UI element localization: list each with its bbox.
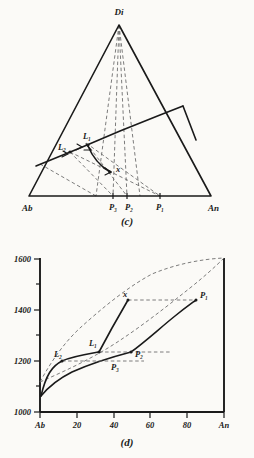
point-marker-x [108,170,111,173]
y-tick-label-1600: 1600 [14,254,32,264]
point-marker-L1 [86,143,89,146]
series-plagioclase-liquidus [40,258,224,382]
panel-d-caption: (d) [0,436,254,448]
label-P1-panel-d: P₁ [200,290,208,300]
x-tick-label-20: 20 [72,420,82,430]
y-tick-label-1200: 1200 [14,356,32,366]
figure-container: Di Ab An L₂ L₁ x P₃ P₂ P₁ (c) [0,0,254,458]
point-marker-P2-panel-d [130,351,133,354]
panel-c-caption: (c) [0,215,254,227]
panel-c-ternary-diagram: Di Ab An L₂ L₁ x P₃ P₂ P₁ [0,0,254,215]
y-tick-label-1000: 1000 [14,407,32,417]
label-x-panel-c: x [115,164,121,174]
label-P3-panel-c: P₃ [109,202,117,212]
vertex-label-di: Di [114,7,124,17]
series-cotectic-upper [41,352,99,396]
label-P2-panel-c: P₂ [125,202,133,212]
label-L1-panel-c: L₁ [82,131,91,141]
x-tick-label-80: 80 [183,420,192,430]
label-P1-panel-c: P₁ [156,202,164,212]
y-tick-label-1400: 1400 [14,305,32,315]
cotectic-boundary-line [36,106,183,166]
point-marker-L2-panel-d [61,360,64,363]
boundary-line-to-edge [183,106,196,140]
x-tick-label-an: An [218,420,230,430]
panel-d-tx-diagram: 1000 1200 1400 1600 Ab 20 40 60 80 An [0,240,254,455]
label-L2-panel-d: L₂ [53,349,62,359]
vertex-label-ab: Ab [21,203,33,213]
series-plagioclase-solidus [40,258,224,382]
path-arrowheads [62,144,111,175]
point-marker-P1-panel-d [195,299,198,302]
label-P3-panel-d: P₃ [111,362,119,372]
x-tick-label-ab: Ab [34,420,45,430]
label-x-panel-d: x [122,289,128,299]
x-tick-label-40: 40 [109,420,119,430]
point-marker-L2 [68,150,71,153]
vertex-label-an: An [207,203,219,213]
label-L2-panel-c: L₂ [57,142,66,152]
x-tick-label-60: 60 [146,420,155,430]
point-marker-L1-panel-d [98,351,101,354]
label-P2-panel-d: P₂ [135,349,143,359]
label-L1-panel-d: L₁ [88,338,97,348]
series-branch-P2-to-P1 [131,300,196,352]
